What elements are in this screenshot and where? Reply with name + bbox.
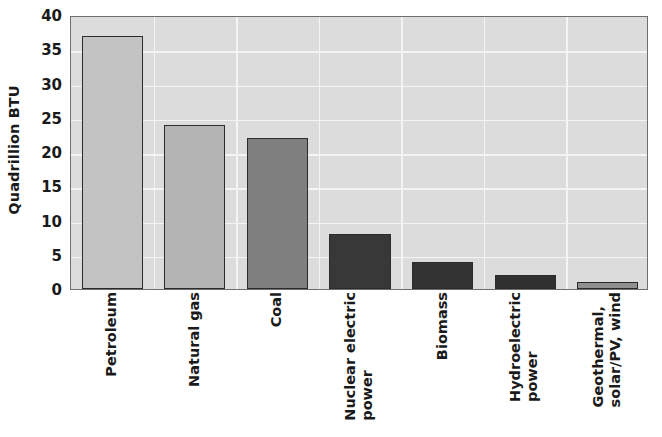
gridline-horizontal <box>71 188 647 190</box>
y-axis-tick-labels: 4035302520151050 <box>26 9 66 299</box>
plot-area <box>70 16 648 290</box>
bar <box>412 262 473 289</box>
x-axis-tick-labels: PetroleumNatural gasCoalNuclear electric… <box>70 292 648 437</box>
gridline-vertical <box>566 17 568 289</box>
x-axis-tick-label: Natural gas <box>153 292 236 437</box>
x-axis-tick-label-line: Biomass <box>433 292 449 360</box>
y-axis-title: Quadrillion BTU <box>0 0 28 300</box>
x-axis-tick-label-text: Hydroelectricpower <box>507 292 540 402</box>
x-axis-tick-label-line: Petroleum <box>103 292 119 377</box>
x-axis-tick-label: Biomass <box>400 292 483 437</box>
x-axis-tick-label: Geothermal,solar/PV, wind <box>565 292 648 437</box>
bar <box>495 275 556 289</box>
x-axis-tick-label-text: Coal <box>268 292 285 327</box>
y-axis-tick-label: 20 <box>41 144 62 162</box>
gridline-horizontal <box>71 51 647 53</box>
x-axis-tick-label-line: power <box>359 292 376 421</box>
x-axis-tick-label-line: Nuclear electric <box>342 292 358 421</box>
y-axis-tick-label: 5 <box>52 247 62 265</box>
bar-chart: Quadrillion BTU 4035302520151050 Petrole… <box>0 0 662 437</box>
bar <box>247 138 308 289</box>
x-axis-tick-label-line: solar/PV, wind <box>607 292 624 407</box>
x-axis-tick-label-line: power <box>524 292 541 402</box>
x-axis-tick-label: Nuclear electricpower <box>318 292 401 437</box>
x-axis-tick-label-text: Natural gas <box>186 292 203 387</box>
y-axis-tick-label: 30 <box>41 76 62 94</box>
gridline-vertical <box>236 17 238 289</box>
y-axis-tick-label: 35 <box>41 41 62 59</box>
bar <box>329 234 390 289</box>
y-axis-tick-label: 10 <box>41 213 62 231</box>
gridline-horizontal <box>71 154 647 156</box>
y-axis-tick-label: 40 <box>41 7 62 25</box>
x-axis-tick-label: Hydroelectricpower <box>483 292 566 437</box>
bar <box>82 36 143 289</box>
gridline-vertical <box>401 17 403 289</box>
gridline-vertical <box>484 17 486 289</box>
x-axis-tick-label: Coal <box>235 292 318 437</box>
y-axis-title-text: Quadrillion BTU <box>6 85 22 214</box>
y-axis-tick-label: 0 <box>52 281 62 299</box>
x-axis-tick-label-text: Geothermal,solar/PV, wind <box>590 292 623 407</box>
gridline-horizontal <box>71 86 647 88</box>
gridline-vertical <box>319 17 321 289</box>
x-axis-tick-label-text: Nuclear electricpower <box>342 292 375 421</box>
gridline-horizontal <box>71 120 647 122</box>
gridline-horizontal <box>71 223 647 225</box>
x-axis-tick-label-line: Natural gas <box>186 292 202 387</box>
y-axis-tick-label: 25 <box>41 110 62 128</box>
x-axis-tick-label-text: Petroleum <box>103 292 120 377</box>
bar <box>164 125 225 289</box>
y-axis-tick-label: 15 <box>41 178 62 196</box>
bar <box>577 282 638 289</box>
x-axis-tick-label-line: Hydroelectric <box>507 292 523 402</box>
gridline-vertical <box>154 17 156 289</box>
x-axis-tick-label-line: Geothermal, <box>590 306 606 407</box>
x-axis-tick-label-text: Biomass <box>433 292 450 360</box>
x-axis-tick-label: Petroleum <box>70 292 153 437</box>
x-axis-tick-label-line: Coal <box>268 292 284 327</box>
